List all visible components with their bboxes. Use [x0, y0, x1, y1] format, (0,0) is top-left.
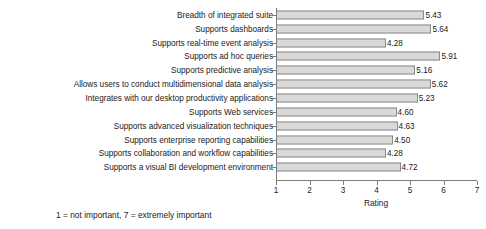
bar-value-label: 5.62 — [432, 80, 448, 89]
bar — [276, 163, 401, 172]
x-axis-tick-label: 2 — [307, 186, 312, 196]
bar-value-label: 5.64 — [432, 24, 448, 33]
y-axis-tick — [272, 153, 276, 154]
category-label: Supports a visual BI development environ… — [104, 163, 273, 172]
y-axis-tick — [272, 84, 276, 85]
y-axis-tick — [272, 15, 276, 16]
category-label: Supports dashboards — [195, 24, 273, 33]
bar-row: Supports advanced visualization techniqu… — [0, 119, 486, 133]
category-label: Supports collaboration and workflow capa… — [99, 149, 273, 158]
bar — [276, 149, 386, 158]
bar — [276, 38, 386, 47]
bar-row: Supports Web services4.60 — [0, 105, 486, 119]
category-label: Supports real-time event analysis — [152, 38, 273, 47]
bar — [276, 10, 424, 19]
category-label: Supports ad hoc queries — [184, 52, 273, 61]
y-axis-tick — [272, 112, 276, 113]
bar-row: Breadth of integrated suite5.43 — [0, 8, 486, 22]
bar-value-label: 4.60 — [398, 107, 414, 116]
x-axis-tick — [343, 181, 344, 185]
bar-row: Integrates with our desktop productivity… — [0, 91, 486, 105]
y-axis-tick — [272, 98, 276, 99]
x-axis-tick-label: 5 — [408, 186, 413, 196]
x-axis-tick — [377, 181, 378, 185]
category-label: Supports advanced visualization techniqu… — [114, 121, 273, 130]
bar-value-label: 5.91 — [441, 52, 457, 61]
bar-value-label: 4.63 — [399, 121, 415, 130]
y-axis-tick — [272, 70, 276, 71]
category-label: Breadth of integrated suite — [177, 10, 273, 19]
bar — [276, 80, 431, 89]
bar — [276, 94, 418, 103]
x-axis-tick-label: 7 — [475, 186, 480, 196]
bar-row: Supports ad hoc queries5.91 — [0, 50, 486, 64]
bar-row: Allows users to conduct multidimensional… — [0, 77, 486, 91]
y-axis-tick — [272, 56, 276, 57]
bar-row: Supports predictive analysis5.16 — [0, 63, 486, 77]
y-axis-tick — [272, 43, 276, 44]
bar-row: Supports enterprise reporting capabiliti… — [0, 133, 486, 147]
bar-value-label: 5.16 — [416, 66, 432, 75]
bar — [276, 107, 397, 116]
bar-value-label: 4.50 — [394, 135, 410, 144]
y-axis-tick — [272, 167, 276, 168]
bar — [276, 121, 398, 130]
x-axis-tick — [276, 181, 277, 185]
x-axis-tick-label: 1 — [274, 186, 279, 196]
bar-row: Supports real-time event analysis4.28 — [0, 36, 486, 50]
x-axis-tick — [444, 181, 445, 185]
bar — [276, 52, 440, 61]
x-axis-tick — [310, 181, 311, 185]
chart-footnote: 1 = not important, 7 = extremely importa… — [56, 210, 211, 220]
bar — [276, 66, 415, 75]
x-axis-tick — [477, 181, 478, 185]
y-axis-line — [276, 8, 277, 180]
category-label: Integrates with our desktop productivity… — [85, 94, 273, 103]
category-label: Supports Web services — [189, 107, 273, 116]
bar-value-label: 5.43 — [425, 10, 441, 19]
x-axis-tick — [410, 181, 411, 185]
y-axis-tick — [272, 126, 276, 127]
x-axis-tick-label: 6 — [441, 186, 446, 196]
bar-value-label: 4.72 — [402, 163, 418, 172]
bar-value-label: 4.28 — [387, 38, 403, 47]
y-axis-tick — [272, 140, 276, 141]
x-axis-tick-label: 4 — [374, 186, 379, 196]
bar — [276, 135, 393, 144]
bar-row: Supports dashboards5.64 — [0, 22, 486, 36]
bar-row: Supports a visual BI development environ… — [0, 160, 486, 174]
bar-row: Supports collaboration and workflow capa… — [0, 147, 486, 161]
bar — [276, 24, 431, 33]
x-axis-tick-label: 3 — [341, 186, 346, 196]
category-label: Allows users to conduct multidimensional… — [74, 80, 273, 89]
bar-value-label: 4.28 — [387, 149, 403, 158]
y-axis-tick — [272, 29, 276, 30]
x-axis-title: Rating — [364, 198, 388, 208]
category-label: Supports predictive analysis — [171, 66, 273, 75]
bar-value-label: 5.23 — [419, 94, 435, 103]
category-label: Supports enterprise reporting capabiliti… — [124, 135, 273, 144]
bar-chart: Breadth of integrated suite5.43Supports … — [0, 0, 486, 229]
plot-area: Breadth of integrated suite5.43Supports … — [0, 0, 486, 190]
